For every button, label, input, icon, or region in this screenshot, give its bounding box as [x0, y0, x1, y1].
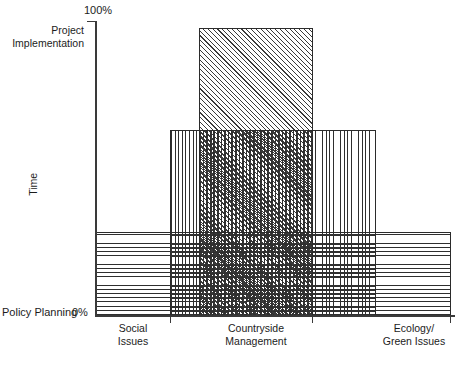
x-category-label-ecology-green-issues: Ecology/ Green Issues	[366, 322, 462, 348]
x-axis-line	[95, 315, 455, 317]
x-category-label-countryside-management: Countryside Management	[196, 322, 316, 348]
x-tick-1	[170, 315, 171, 323]
y-axis-top-endpoint-label: Project Implementation	[6, 24, 84, 49]
chart-container: 100% 0% Policy Planning Project Implemen…	[0, 0, 464, 365]
x-category-label-social-issues: Social Issues	[96, 322, 170, 348]
y-axis-line	[95, 21, 97, 315]
y-tick-100	[87, 21, 96, 22]
y-axis-bottom-endpoint-label: Policy Planning	[2, 306, 77, 319]
y-axis-max-label: 100%	[84, 4, 112, 17]
y-axis-title: Time	[27, 144, 40, 224]
bar-project-implementation-band	[199, 28, 313, 316]
